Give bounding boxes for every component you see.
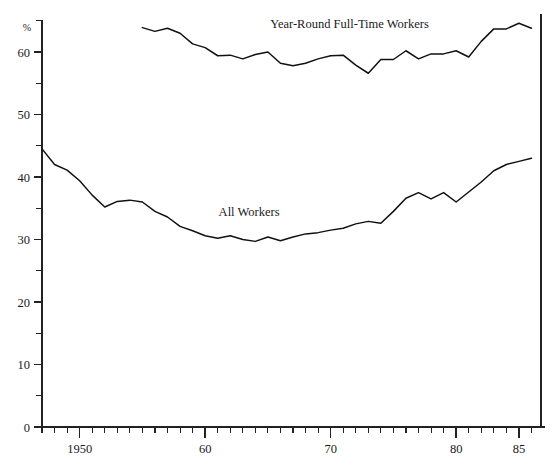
y-tick-label: 30: [18, 233, 31, 247]
x-tick-label: 80: [450, 442, 463, 456]
y-tick-label: 40: [18, 171, 31, 185]
series-lines: [42, 23, 531, 241]
y-tick-label: 0: [24, 421, 30, 435]
y-axis-unit-label: %: [23, 22, 31, 33]
y-tick-label: 10: [18, 358, 31, 372]
series-line-1: [42, 149, 531, 242]
y-tick-label: 60: [18, 46, 31, 60]
x-tick-label: 60: [199, 442, 212, 456]
y-axis-tick-labels: 0102030405060: [18, 46, 31, 435]
chart-container: 0102030405060 195060708085 % Year-Round …: [0, 0, 557, 466]
x-tick-label: 70: [324, 442, 337, 456]
y-tick-label: 20: [18, 296, 31, 310]
line-chart: 0102030405060 195060708085 % Year-Round …: [0, 0, 557, 466]
x-axis-ticks: [42, 427, 531, 438]
y-axis-ticks: [34, 21, 42, 427]
y-tick-label: 50: [18, 108, 31, 122]
series-label-0: Year-Round Full-Time Workers: [270, 17, 429, 31]
series-labels: Year-Round Full-Time WorkersAll Workers: [219, 17, 429, 219]
series-label-1: All Workers: [219, 205, 280, 219]
x-axis-tick-labels: 195060708085: [67, 442, 525, 456]
x-tick-label: 1950: [67, 442, 92, 456]
x-tick-label: 85: [513, 442, 526, 456]
